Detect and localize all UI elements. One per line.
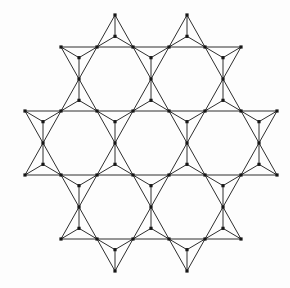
- vertex-dot: [203, 45, 206, 48]
- vertex-dot: [257, 163, 260, 166]
- vertex-dot: [131, 109, 134, 112]
- vertex-dot: [95, 45, 98, 48]
- vertex-dot: [185, 141, 188, 144]
- vertex-dot: [77, 205, 80, 208]
- vertex-dot: [221, 227, 224, 230]
- vertex-dot: [113, 35, 116, 38]
- vertex-dot: [239, 173, 242, 176]
- vertex-dot: [239, 45, 242, 48]
- vertex-dot: [59, 237, 62, 240]
- vertex-dot: [185, 13, 188, 16]
- vertex-dot: [149, 99, 152, 102]
- vertex-dot: [239, 109, 242, 112]
- vertex-dot: [221, 77, 224, 80]
- vertex-dot: [221, 184, 224, 187]
- vertex-dot: [113, 120, 116, 123]
- vertex-dot: [131, 45, 134, 48]
- vertex-dot: [41, 141, 44, 144]
- vertex-dot: [77, 77, 80, 80]
- vertex-dot: [95, 109, 98, 112]
- vertex-dot: [59, 173, 62, 176]
- vertex-dot: [41, 120, 44, 123]
- vertex-dot: [113, 141, 116, 144]
- vertex-dot: [149, 184, 152, 187]
- vertex-dot: [185, 35, 188, 38]
- vertex-dot: [185, 120, 188, 123]
- vertex-dot: [185, 163, 188, 166]
- vertex-dot: [77, 99, 80, 102]
- vertex-dot: [203, 237, 206, 240]
- vertex-dot: [275, 173, 278, 176]
- vertex-dot: [257, 141, 260, 144]
- vertex-dot: [41, 163, 44, 166]
- vertex-dot: [167, 173, 170, 176]
- vertex-dot: [131, 237, 134, 240]
- vertex-dot: [149, 56, 152, 59]
- vertex-dot: [149, 205, 152, 208]
- vertex-dot: [221, 56, 224, 59]
- vertex-dot: [95, 237, 98, 240]
- vertex-dot: [77, 184, 80, 187]
- vertex-dot: [113, 269, 116, 272]
- vertex-dot: [149, 227, 152, 230]
- vertex-dot: [23, 109, 26, 112]
- vertex-dot: [77, 227, 80, 230]
- vertex-dot: [239, 237, 242, 240]
- figure-canvas: [0, 0, 290, 288]
- vertex-dot: [77, 56, 80, 59]
- vertex-dot: [257, 120, 260, 123]
- vertex-dot: [113, 13, 116, 16]
- vertex-dot: [113, 163, 116, 166]
- kagome-lattice-svg: [0, 0, 290, 288]
- vertex-dot: [167, 237, 170, 240]
- vertex-dot: [167, 109, 170, 112]
- vertex-dot: [185, 269, 188, 272]
- vertex-dot: [185, 248, 188, 251]
- vertex-dot: [113, 248, 116, 251]
- vertex-dot: [275, 109, 278, 112]
- vertex-dot: [59, 45, 62, 48]
- vertex-dot: [167, 45, 170, 48]
- vertex-dot: [203, 173, 206, 176]
- vertex-dot: [95, 173, 98, 176]
- vertex-dot: [221, 99, 224, 102]
- vertex-dot: [203, 109, 206, 112]
- vertex-dot: [221, 205, 224, 208]
- vertex-dot: [131, 173, 134, 176]
- vertex-dot: [59, 109, 62, 112]
- vertex-dot: [23, 173, 26, 176]
- vertex-dot: [149, 77, 152, 80]
